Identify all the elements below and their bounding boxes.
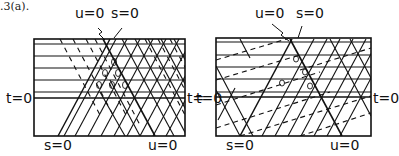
right-label-t0-left: t=0	[196, 91, 222, 105]
right-label-u0-bottom: u=0	[330, 138, 360, 152]
right-label-s0-top: s=0	[296, 6, 324, 20]
left-label-s0-bottom: s=0	[44, 138, 72, 152]
left-label-u0-bottom: u=0	[148, 138, 178, 152]
left-label-t0: t=0	[6, 91, 32, 105]
right-label-t0-right: t=0	[373, 91, 399, 105]
right-label-s0-bottom: s=0	[226, 138, 254, 152]
right-panel	[216, 24, 392, 136]
left-panel	[34, 28, 226, 136]
right-label-u0-top: u=0	[255, 6, 285, 20]
left-label-s0-top: s=0	[111, 6, 139, 20]
left-label-u0-top: u=0	[75, 6, 105, 20]
